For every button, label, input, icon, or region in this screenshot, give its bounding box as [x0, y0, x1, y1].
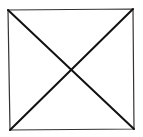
- square-with-diagonals-diagram: [0, 0, 143, 137]
